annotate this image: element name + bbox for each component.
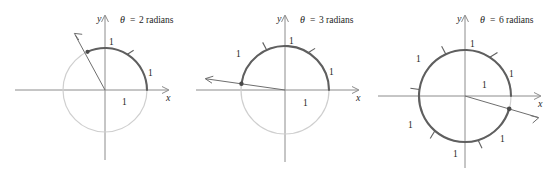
panel-title-theta-symbol: θ [120,14,125,25]
y-axis-label: y [276,13,282,24]
panel-title-value: 3 [319,15,324,25]
panel-2-canvas: θ = 3 radians x y 1 1 1 1 [186,0,372,180]
radian-tick-5 [478,140,482,148]
arc-length-label-4: 1 [408,120,413,130]
radian-tick-1 [127,50,134,54]
y-axis-label: y [96,13,102,24]
panel-title-equals: = [490,15,495,25]
terminal-ray [465,96,538,117]
panel-theta-6-radians: θ = 6 radians x y 1 1 1 1 1 1 1 [372,0,558,180]
arc-length-label-3: 1 [236,49,241,59]
y-axis-label: y [456,13,462,24]
panel-title-theta-symbol: θ [480,14,485,25]
arc-length-label-2: 1 [148,68,153,78]
unit-circle-radian-figure: θ = 2 radians x y 1 1 1 [0,0,560,180]
arc-length-label-3: 1 [416,54,421,64]
terminal-point-dot [507,107,512,112]
radian-tick-2 [263,42,267,50]
x-axis-unit-label: 1 [303,98,308,108]
arc-length-label-5: 1 [453,149,458,159]
radian-tick-2 [442,46,446,54]
x-axis-unit-label: 1 [122,97,127,107]
panel-3-canvas: θ = 6 radians x y 1 1 1 1 1 1 1 [372,0,558,180]
arc-length-label-1: 1 [470,39,475,49]
panel-title-equals: = [130,15,135,25]
x-axis-unit-label: 1 [482,80,487,90]
panel-title-equals: = [310,15,315,25]
terminal-point-dot [239,82,243,86]
panel-title-value: 2 [139,15,144,25]
arc-length-label-6: 1 [500,134,505,144]
terminal-ray [75,35,105,90]
x-axis-label: x [165,92,171,103]
terminal-point-dot [85,50,89,54]
terminal-ray-arrowhead [531,116,539,123]
panel-title-units: radians [146,15,174,25]
radian-tick-1 [490,53,498,58]
panel-title-theta-symbol: θ [300,14,305,25]
x-axis-label: x [537,98,543,109]
radian-tick-1 [308,48,315,53]
terminal-ray-arrowhead [74,33,82,40]
panel-title-value: 6 [499,15,504,25]
panel-title-units: radians [326,15,354,25]
terminal-ray [206,79,285,90]
panel-1-canvas: θ = 2 radians x y 1 1 1 [2,0,188,180]
radian-tick-3 [410,88,419,89]
arc-length-label-2: 1 [329,67,334,77]
arc-length-label-2: 1 [509,69,514,79]
arc-length-label-1: 1 [289,36,294,46]
panel-title-units: radians [506,15,534,25]
panel-theta-2-radians: θ = 2 radians x y 1 1 1 [2,0,188,180]
arc-highlight [88,48,147,90]
panel-theta-3-radians: θ = 3 radians x y 1 1 1 1 [186,0,372,180]
arc-length-label-1: 1 [109,37,114,47]
x-axis-label: x [355,92,361,103]
radian-tick-4 [430,131,435,139]
